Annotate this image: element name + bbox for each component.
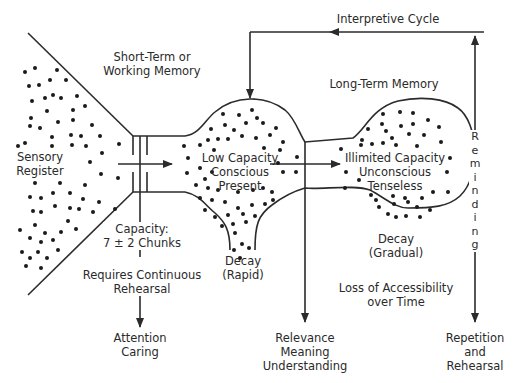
stm-core-label: Low CapacityConsciousPresent <box>202 151 279 193</box>
reminding-label: Reminding <box>469 130 481 252</box>
long-term-memory-label: Long-Term Memory <box>329 77 438 91</box>
sensory-register-label: SensoryRegister <box>16 150 63 178</box>
repetition-label: RepetitionandRehearsal <box>446 331 505 373</box>
sensory-funnel-top <box>28 33 133 136</box>
capacity-label: Capacity:7 ± 2 Chunks <box>103 222 181 250</box>
attention-caring-label: AttentionCaring <box>113 331 166 359</box>
loss-accessibility-label: Loss of Accessibilityover Time <box>339 281 453 309</box>
short-term-memory-label: Short-Term orWorking Memory <box>103 50 200 78</box>
decay-rapid-label: Decay(Rapid) <box>222 254 264 282</box>
decay-gradual-label: Decay(Gradual) <box>369 232 424 260</box>
ltm-core-label: Illimited CapacityUnconsciousTenseless <box>345 151 445 193</box>
requires-rehearsal-label: Requires ContinuousRehearsal <box>83 268 201 296</box>
relevance-label: RelevanceMeaningUnderstanding <box>263 331 348 373</box>
interpretive-cycle-label: Interpretive Cycle <box>337 12 440 26</box>
